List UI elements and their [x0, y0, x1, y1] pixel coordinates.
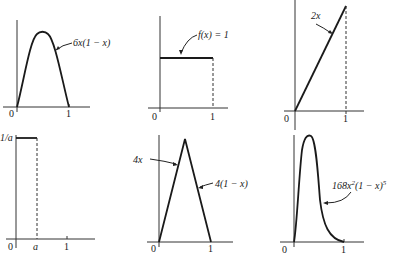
- formula-label: 168x2(1 − x)5: [332, 180, 386, 191]
- chart-triangular: 4x 4(1 − x) 0 1: [133, 135, 266, 269]
- arrowhead: [328, 30, 333, 34]
- formula-base: 168x: [332, 180, 351, 191]
- x-tick-label-1: 1: [343, 114, 348, 124]
- chart-2x: 2x 0 1: [266, 0, 398, 135]
- y-tick-label: 1/a: [0, 133, 13, 143]
- curve: [17, 32, 69, 107]
- label-arrow: [181, 35, 197, 53]
- chart-uniform-0-a: 1/a 0 a 1: [0, 135, 133, 269]
- arrowhead: [198, 185, 203, 189]
- formula-exponent-2: 5: [383, 179, 387, 187]
- x-tick-label-1: 1: [210, 112, 215, 122]
- right-formula-label: 4(1 − x): [215, 179, 248, 189]
- left-formula-label: 4x: [133, 155, 142, 165]
- x-tick-label-1: 1: [208, 244, 213, 254]
- formula-mid: (1 − x): [355, 180, 383, 191]
- x-tick-label-a: a: [33, 242, 38, 252]
- label-arrow-left: [150, 159, 176, 164]
- formula-label: f(x) = 1: [198, 30, 229, 40]
- curve: [295, 6, 346, 111]
- chart-uniform: f(x) = 1 0 1: [133, 0, 266, 135]
- formula-label: 2x: [311, 11, 320, 21]
- arrowhead: [173, 162, 178, 166]
- x-tick-label-0: 0: [8, 242, 13, 252]
- label-arrow: [316, 24, 331, 33]
- x-tick-label-1: 1: [64, 242, 69, 252]
- arrowhead: [179, 50, 183, 55]
- formula-label: 6x(1 − x): [73, 38, 110, 48]
- x-tick-label-0: 0: [282, 245, 287, 255]
- x-tick-label-0: 0: [284, 114, 289, 124]
- curve: [159, 139, 211, 242]
- x-tick-label-1: 1: [341, 245, 346, 255]
- x-tick-label-0: 0: [9, 109, 14, 119]
- x-tick-label-0: 0: [152, 112, 157, 122]
- x-tick-label-0: 0: [151, 244, 156, 254]
- label-arrow: [326, 192, 351, 203]
- chart-6x-one-minus-x: 6x(1 − x) 0 1: [0, 0, 133, 135]
- chart-beta-3-6: 168x2(1 − x)5 0 1: [266, 135, 398, 269]
- x-tick-label-1: 1: [66, 109, 71, 119]
- arrowhead: [323, 201, 328, 205]
